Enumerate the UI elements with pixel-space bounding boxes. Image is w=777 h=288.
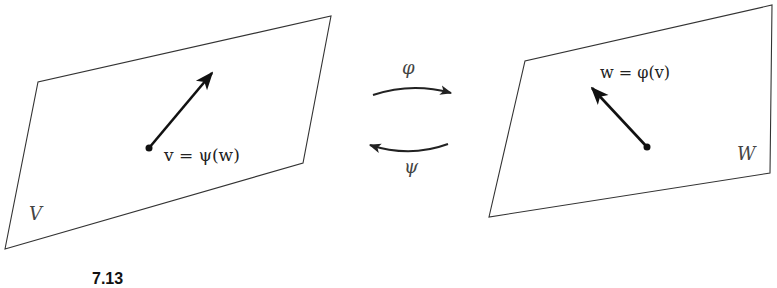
phi-map-arrow bbox=[373, 88, 451, 95]
psi-map-arrow bbox=[370, 144, 448, 151]
vector-w-label: w = φ(v) bbox=[600, 63, 670, 82]
vector-space-v-plane bbox=[5, 16, 331, 249]
vector-v-origin-dot bbox=[146, 145, 153, 152]
figure-caption: 7.13 bbox=[92, 270, 123, 288]
phi-map-label: φ bbox=[402, 57, 415, 78]
vector-v-label: v = ψ(w) bbox=[164, 145, 240, 165]
vector-w-origin-dot bbox=[644, 144, 651, 151]
psi-map-label: ψ bbox=[404, 156, 418, 177]
space-v-name: V bbox=[29, 203, 42, 224]
space-w-name: W bbox=[737, 143, 756, 164]
vector-space-w-plane bbox=[489, 5, 772, 217]
vector-w-arrow bbox=[592, 88, 647, 147]
vector-v-arrow bbox=[149, 73, 212, 148]
